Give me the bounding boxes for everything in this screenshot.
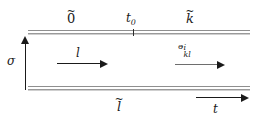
time-axis-label: t [213, 103, 218, 115]
flow-l-arrowhead-icon [100, 60, 108, 68]
sigma-axis-arrowhead-icon [21, 36, 29, 44]
time-axis-line [196, 97, 242, 98]
flow-l-label: l [76, 47, 80, 59]
top-left-label-zero-tilde: ~ 0 [67, 12, 75, 25]
top-boundary-strip [28, 30, 250, 35]
t0-label: t0 [126, 12, 136, 26]
t0-label-subscript: 0 [131, 18, 136, 27]
bottom-boundary-strip [28, 86, 250, 91]
sigma-axis-label: σ [7, 55, 15, 67]
tilde-accent-l: ~ [115, 94, 124, 104]
tilde-accent-zero: ~ [67, 6, 76, 16]
bottom-label-l-tilde: ~ l [117, 100, 121, 113]
flow-n-arrow-line [175, 64, 218, 65]
worldsheet-strip-figure: σ ~ 0 t0 ~ k l ᵊikl ~ l t [0, 0, 256, 123]
t0-tick-mark [133, 29, 134, 36]
tilde-accent-k: ~ [186, 6, 195, 16]
top-right-label-k-tilde: ~ k [186, 12, 194, 25]
flow-n-label-subscript: kl [183, 50, 190, 59]
sigma-axis-line [25, 42, 26, 90]
time-axis-arrowhead-icon [241, 94, 249, 102]
flow-l-arrow-line [57, 63, 101, 64]
flow-n-label: ᵊikl [178, 42, 191, 58]
flow-n-arrowhead-icon [217, 61, 225, 69]
